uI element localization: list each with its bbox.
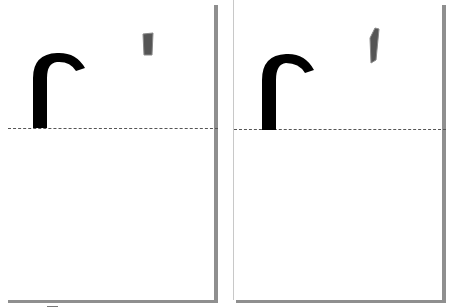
page-panel-right xyxy=(233,0,442,300)
glyph-hook-right xyxy=(259,48,319,130)
mark-left-icon xyxy=(140,30,156,58)
baseline-left xyxy=(8,128,218,129)
scale-tick xyxy=(47,306,58,307)
panel-left-shadow-right xyxy=(214,5,218,303)
panel-right-shadow-right xyxy=(442,5,446,303)
glyph-hook-left xyxy=(30,48,90,128)
panel-left-shadow-bottom xyxy=(8,300,218,303)
mark-right-icon xyxy=(366,26,382,66)
panel-right-shadow-bottom xyxy=(236,300,446,303)
page-panel-left xyxy=(8,0,215,300)
